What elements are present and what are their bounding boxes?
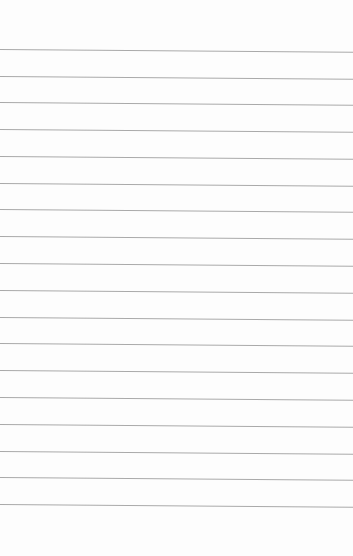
ruled-line	[0, 263, 353, 267]
ruled-line	[0, 397, 353, 401]
ruled-line	[0, 102, 353, 106]
ruled-line	[0, 183, 353, 187]
ruled-line	[0, 49, 353, 53]
ruled-line	[0, 451, 353, 455]
ruled-line	[0, 236, 353, 240]
ruled-line	[0, 343, 353, 347]
ruled-line	[0, 424, 353, 428]
ruled-line	[0, 317, 353, 321]
ruled-line	[0, 209, 353, 213]
ruled-line	[0, 477, 353, 481]
ruled-line	[0, 129, 353, 133]
ruled-line	[0, 290, 353, 294]
ruled-line	[0, 504, 353, 508]
ruled-line	[0, 370, 353, 374]
ruled-line	[0, 76, 353, 80]
ruled-line	[0, 156, 353, 160]
